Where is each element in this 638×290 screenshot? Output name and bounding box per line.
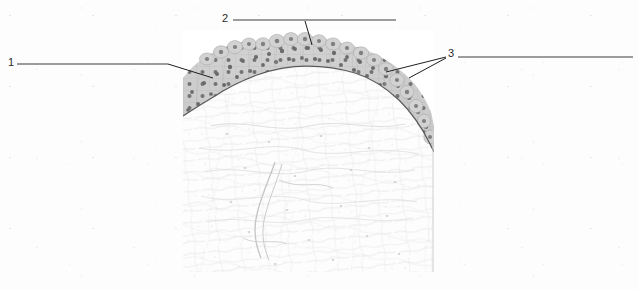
label-2-number[interactable]: 2 <box>222 13 228 24</box>
figure-root: 1 2 3 <box>0 0 638 290</box>
label-3-number[interactable]: 3 <box>448 48 454 59</box>
transitional-epithelium-micrograph <box>183 30 434 272</box>
label-1-number[interactable]: 1 <box>8 57 14 68</box>
